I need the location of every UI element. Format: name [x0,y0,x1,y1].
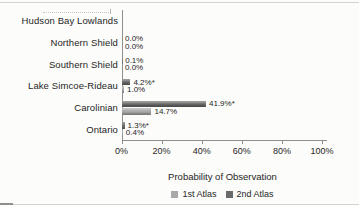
value-label: 1.0% [127,86,145,94]
legend-swatch-1st-atlas [171,191,178,198]
scan-artifact-dotted-line [43,12,109,13]
x-axis-tick [122,140,123,144]
x-tick-label: 60% [224,146,260,156]
value-label: 0.0% [125,43,143,51]
x-axis-tick [242,140,243,144]
x-tick-label: 100% [304,146,340,156]
bar-2nd-atlas [122,57,123,64]
value-label: 14.7% [154,108,177,116]
scan-artifact-mark [110,9,111,14]
category-label: Hudson Bay Lowlands [0,15,118,26]
legend-label: 1st Atlas [182,189,216,199]
bottom-border-line [0,204,359,205]
bar-2nd-atlas [122,122,125,129]
value-label: 0.0% [125,64,143,72]
x-tick-label: 20% [144,146,180,156]
atlas-probability-chart-figure: Hudson Bay LowlandsNorthern Shield0.0%0.… [0,0,359,206]
bar-1st-atlas [122,130,123,137]
category-label: Southern Shield [0,59,118,70]
x-tick-label: 80% [264,146,300,156]
x-axis-tick [202,140,203,144]
top-border-line [0,2,359,3]
legend: 1st Atlas2nd Atlas [122,189,323,199]
scan-artifact-corner-mark [0,203,13,205]
x-axis-tick [322,140,323,144]
x-tick-label: 0% [104,146,140,156]
legend-item: 1st Atlas [171,189,216,199]
x-axis-line [122,140,327,141]
legend-label: 2nd Atlas [237,189,274,199]
x-axis-tick [282,140,283,144]
category-label: Carolinian [0,102,118,113]
category-label: Northern Shield [0,37,118,48]
category-label: Ontario [0,124,118,135]
y-axis-line [122,10,123,141]
category-label: Lake Simcoe-Rideau [0,80,118,91]
bar-1st-atlas [122,86,124,93]
legend-swatch-2nd-atlas [226,191,233,198]
legend-item: 2nd Atlas [226,189,274,199]
value-label: 0.4% [126,129,144,137]
value-label: 41.9%* [209,100,235,108]
x-axis-tick [162,140,163,144]
x-tick-label: 40% [184,146,220,156]
x-axis-title: Probability of Observation [122,171,323,182]
bar-1st-atlas [122,108,151,115]
